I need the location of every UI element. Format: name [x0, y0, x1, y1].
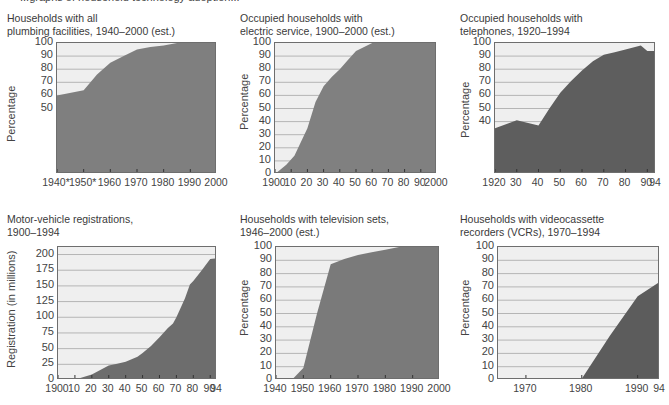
y-tick-label: 40 [243, 115, 271, 126]
chart-title-line: 1900–1994 [7, 226, 133, 239]
x-tick-label: 1990 [178, 177, 201, 188]
y-tick-label: 175 [26, 263, 54, 274]
y-tick-label: 50 [25, 102, 53, 113]
y-tick-label: 60 [466, 293, 494, 304]
x-tick-label: 60 [365, 177, 377, 188]
y-tick-label: 50 [26, 342, 54, 353]
x-tick-label: 1990 [625, 383, 648, 394]
y-tick-label: 200 [26, 248, 54, 259]
x-tick-label: 1980 [569, 383, 592, 394]
y-tick-label: 50 [243, 102, 271, 113]
y-tick-label: 90 [244, 253, 272, 264]
y-tick-label: 100 [25, 36, 53, 47]
y-tick-label: 90 [466, 253, 494, 264]
x-tick-label: 50 [349, 177, 361, 188]
chart-title: Households with videocassetterecorders (… [460, 213, 604, 239]
plot-area [275, 246, 439, 379]
x-tick-label: 1960 [318, 383, 341, 394]
chart-title-line: Households with videocassette [460, 213, 604, 226]
x-tick-label: 60 [575, 177, 587, 188]
chart-title-line: 1946–2000 (est.) [240, 226, 389, 239]
x-tick-label: 2000 [427, 383, 450, 394]
x-tick-label: 70 [597, 177, 609, 188]
y-tick-label: 90 [463, 49, 491, 60]
plot-area [57, 246, 216, 379]
y-tick-label: 70 [244, 280, 272, 291]
x-tick-label: 20 [85, 383, 97, 394]
x-tick-label: 1970 [124, 177, 147, 188]
y-tick-label: 90 [25, 49, 53, 60]
y-tick-label: 0 [466, 373, 494, 384]
x-tick-label: 1950* [69, 177, 96, 188]
area-chart-svg [276, 247, 439, 379]
x-tick-label: 80 [398, 177, 410, 188]
x-tick-label: 2000 [424, 177, 447, 188]
plot-area [497, 246, 659, 379]
y-tick-label: 150 [26, 279, 54, 290]
y-tick-label: 70 [463, 75, 491, 86]
y-tick-label: 60 [243, 88, 271, 99]
y-tick-label: 80 [463, 62, 491, 73]
y-tick-label: 80 [466, 267, 494, 278]
y-tick-label: 25 [26, 357, 54, 368]
y-tick-label: 50 [244, 307, 272, 318]
x-tick-label: 30 [317, 177, 329, 188]
x-tick-label: 40 [333, 177, 345, 188]
y-tick-label: 70 [243, 75, 271, 86]
plot-area [494, 42, 655, 173]
area-fill [498, 282, 659, 379]
y-tick-label: 50 [463, 102, 491, 113]
y-tick-label: 100 [463, 36, 491, 47]
y-tick-label: 50 [466, 307, 494, 318]
y-tick-label: 100 [243, 36, 271, 47]
x-tick-label: 94 [653, 383, 665, 394]
x-tick-label: 70 [382, 177, 394, 188]
x-tick-label: 94 [649, 177, 661, 188]
x-tick-label: 70 [170, 383, 182, 394]
x-tick-label: 1980 [151, 177, 174, 188]
area-chart-svg [57, 43, 216, 173]
x-tick-label: 50 [553, 177, 565, 188]
x-tick-label: 40 [532, 177, 544, 188]
chart-title-line: Motor-vehicle registrations, [7, 213, 133, 226]
x-tick-label: 1950 [291, 383, 314, 394]
chart-title: Motor-vehicle registrations,1900–1994 [7, 213, 133, 239]
chart-title-line: Occupied households with [460, 12, 583, 25]
truncated-heading-fragment: ...graphs of household technology adopti… [20, 0, 240, 3]
x-tick-label: 30 [510, 177, 522, 188]
x-tick-label: 1970 [513, 383, 536, 394]
x-tick-label: 1920 [482, 177, 505, 188]
x-tick-label: 94 [210, 383, 222, 394]
y-tick-label: 30 [243, 128, 271, 139]
x-tick-label: 30 [102, 383, 114, 394]
chart-title-line: recorders (VCRs), 1970–1994 [460, 226, 604, 239]
y-tick-label: 90 [243, 49, 271, 60]
x-tick-label: 1990 [400, 383, 423, 394]
y-tick-label: 100 [466, 240, 494, 251]
y-tick-label: 40 [244, 320, 272, 331]
y-tick-label: 20 [244, 346, 272, 357]
y-tick-label: 125 [26, 295, 54, 306]
x-tick-label: 2000 [204, 177, 227, 188]
y-tick-label: 20 [243, 141, 271, 152]
x-tick-label: 80 [186, 383, 198, 394]
y-tick-label: 80 [244, 267, 272, 278]
x-tick-label: 10 [284, 177, 296, 188]
chart-title: Households with television sets,1946–200… [240, 213, 389, 239]
area-chart-svg [58, 247, 216, 379]
x-tick-label: 50 [136, 383, 148, 394]
area-fill [495, 46, 655, 173]
x-tick-label: 1900 [262, 177, 285, 188]
x-tick-label: 60 [153, 383, 165, 394]
y-tick-label: 40 [463, 115, 491, 126]
x-tick-label: 40 [119, 383, 131, 394]
y-tick-label: 80 [25, 62, 53, 73]
x-tick-label: 1980 [373, 383, 396, 394]
plot-area [274, 42, 436, 173]
y-tick-label: 75 [26, 326, 54, 337]
y-tick-label: 100 [26, 310, 54, 321]
plot-area [56, 42, 216, 173]
x-tick-label: 1960 [98, 177, 121, 188]
y-tick-label: 10 [243, 154, 271, 165]
area-chart-svg [498, 247, 659, 379]
